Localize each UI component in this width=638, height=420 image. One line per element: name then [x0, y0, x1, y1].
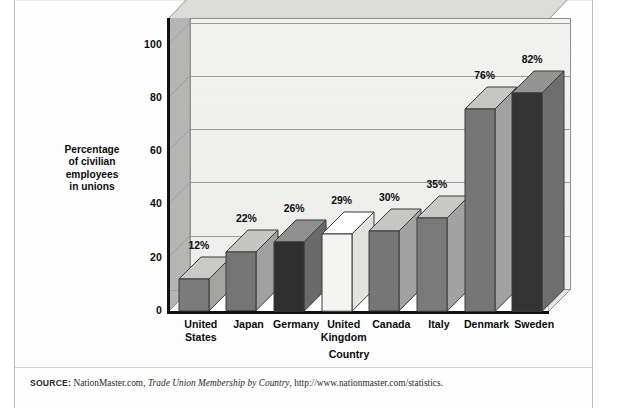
bar-value-label: 26% — [268, 203, 320, 214]
source-text-1: NationMaster.com, — [71, 378, 148, 388]
x-axis-title: Country — [289, 348, 409, 360]
bar-series: 12%22%26%29%30%35%76%82% — [0, 0, 638, 330]
x-tick-label-line: Sweden — [494, 318, 574, 331]
source-title: Trade Union Membership by Country — [148, 378, 290, 388]
bar[interactable] — [510, 69, 566, 317]
x-tick-label-line: States — [161, 331, 241, 344]
source-text-2: , http://www.nationmaster.com/statistics… — [290, 378, 444, 388]
x-tick-label: Sweden — [494, 318, 574, 331]
bar-value-label: 30% — [363, 192, 415, 203]
bar-value-label: 82% — [506, 54, 558, 65]
bar-value-label: 76% — [459, 70, 511, 81]
source-label: SOURCE: — [30, 378, 71, 388]
x-axis-tick-labels: UnitedStatesJapanGermanyUnitedKingdomCan… — [0, 318, 638, 352]
bar-value-label: 12% — [173, 240, 225, 251]
x-tick-label-line: Kingdom — [304, 331, 384, 344]
source-divider — [15, 367, 593, 368]
bar-value-label: 22% — [220, 213, 272, 224]
source-note: SOURCE: NationMaster.com, Trade Union Me… — [30, 378, 570, 388]
bar-chart: 020406080100 Percentageof civilianemploy… — [0, 0, 638, 370]
bar-value-label: 35% — [411, 179, 463, 190]
bar-value-label: 29% — [316, 195, 368, 206]
